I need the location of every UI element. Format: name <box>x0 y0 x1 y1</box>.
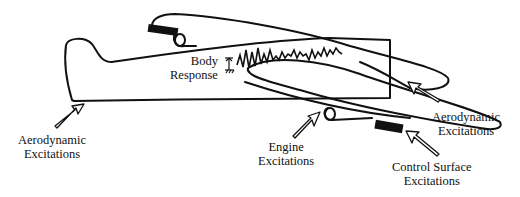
far-control-surface <box>148 24 179 36</box>
label-line: Response <box>170 68 218 82</box>
near-control-surface <box>374 120 403 134</box>
label-body-response: Body Response <box>170 54 218 82</box>
label-line: Excitations <box>392 174 472 188</box>
label-line: Engine <box>258 140 314 154</box>
label-engine: Engine Excitations <box>258 140 314 168</box>
label-line: Excitations <box>432 124 500 138</box>
aircraft-excitation-diagram: Aerodynamic Excitations Body Response En… <box>0 0 520 197</box>
arrow-engine-hollow <box>293 112 320 138</box>
arrow-aero-left <box>55 104 84 128</box>
label-line: Excitations <box>258 154 314 168</box>
label-line: Body <box>170 54 218 68</box>
label-line: Aerodynamic <box>432 110 500 124</box>
arrow-aero-right <box>408 82 440 102</box>
label-line: Control Surface <box>392 160 472 174</box>
label-aero-right: Aerodynamic Excitations <box>432 110 500 138</box>
label-line: Excitations <box>18 147 86 161</box>
label-control-surface: Control Surface Excitations <box>392 160 472 188</box>
label-line: Aerodynamic <box>18 133 86 147</box>
label-aero-left: Aerodynamic Excitations <box>18 133 86 161</box>
